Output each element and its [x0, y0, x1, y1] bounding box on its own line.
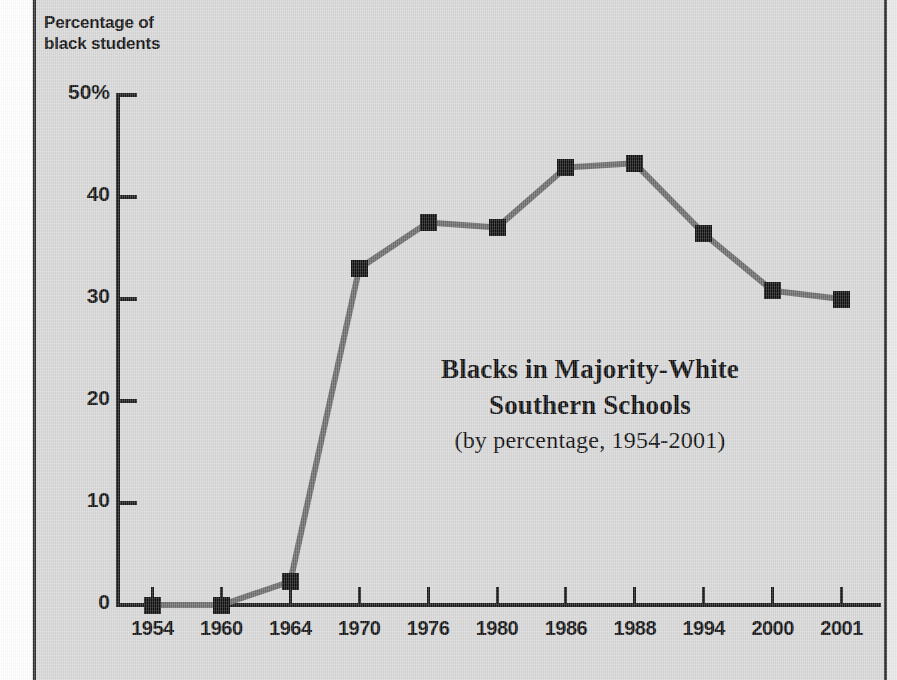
panel-border-left [33, 0, 36, 680]
data-point-marker [420, 214, 437, 231]
data-point-marker [489, 219, 506, 236]
chart-title-block: Blacks in Majority-White Southern School… [390, 352, 790, 454]
data-point-marker [626, 155, 643, 172]
data-point-marker [351, 260, 368, 277]
data-point-marker [833, 291, 850, 308]
chart-subtitle: (by percentage, 1954-2001) [390, 427, 790, 454]
figure-panel: Percentage of black students 01020304050… [0, 0, 897, 680]
data-point-marker [695, 225, 712, 242]
page-left-margin [0, 0, 32, 680]
chart-title-line-1: Blacks in Majority-White [390, 352, 790, 388]
data-point-marker [144, 597, 161, 614]
data-point-marker [764, 282, 781, 299]
data-point-marker [557, 159, 574, 176]
data-point-marker [282, 573, 299, 590]
data-line [0, 0, 897, 680]
page-right-margin [887, 0, 897, 680]
chart-title-line-2: Southern Schools [390, 388, 790, 424]
data-point-marker [213, 597, 230, 614]
